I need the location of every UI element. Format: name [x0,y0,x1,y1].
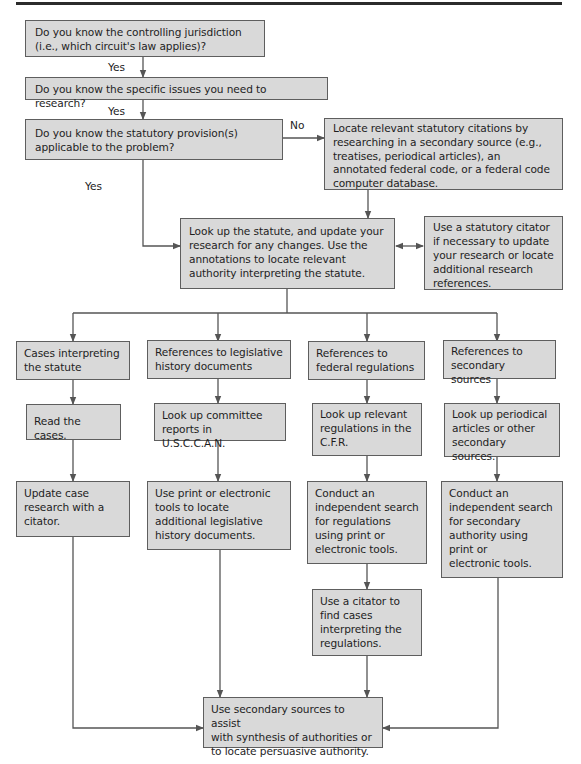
search-secondary-box: Conduct an independent search for second… [441,481,563,578]
connector-lines [0,0,581,764]
search-regulations-box: Conduct an independent search for regula… [307,481,427,564]
read-cases-box: Read the cases. [26,404,121,440]
secondary-sources-box: References to secondary sources [443,340,556,379]
yes-label: Yes [108,105,125,117]
no-label: No [290,119,304,131]
lookup-regulations-box: Look up relevant regulations in the C.F.… [312,403,422,456]
question-statute: Do you know the statutory provision(s) a… [25,119,283,160]
lookup-statute-box: Look up the statute, and update your res… [180,218,395,289]
locate-citations-box: Locate relevant statutory citations by r… [324,118,563,190]
question-issues: Do you know the specific issues you need… [25,77,328,100]
legislative-history-box: References to legislative history docume… [147,340,291,379]
question-jurisdiction: Do you know the controlling jurisdiction… [25,20,265,57]
committee-reports-box: Look up committee reports in U.S.C.C.A.N… [154,403,286,441]
synthesis-box: Use secondary sources to assist with syn… [203,697,383,748]
federal-regulations-box: References to federal regulations [308,341,425,380]
statutory-citator-box: Use a statutory citator if necessary to … [424,216,563,290]
citator-regulations-box: Use a citator to find cases interpreting… [312,589,422,656]
yes-label: Yes [108,61,125,73]
lookup-periodicals-box: Look up periodical articles or other sec… [444,403,560,457]
yes-label: Yes [85,180,102,192]
cases-interpreting-box: Cases interpreting the statute [16,341,130,380]
print-electronic-legislative-box: Use print or electronic tools to locate … [147,481,291,550]
update-case-research-box: Update case research with a citator. [16,481,130,537]
